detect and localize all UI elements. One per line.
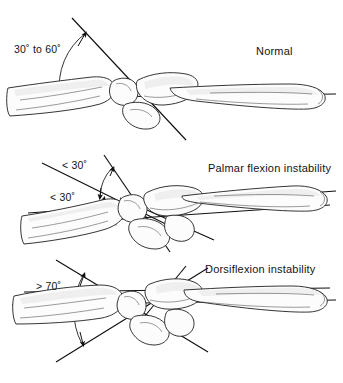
angle-label-palmar-lower: < 30˚ <box>50 192 75 203</box>
panel-title-dorsi: Dorsiflexion instability <box>205 264 316 275</box>
angle-label-palmar-upper: < 30˚ <box>62 160 87 171</box>
angle-label-dorsi: > 70˚ <box>36 281 61 292</box>
wrist-angle-figure: .bone{fill:#fcfcfc;stroke:#1f1f1f;stroke… <box>0 0 343 383</box>
panel-normal <box>0 0 343 130</box>
panel-title-palmar: Palmar flexion instability <box>208 163 331 174</box>
panel-title-normal: Normal <box>256 46 293 57</box>
angle-label-normal: 30˚ to 60˚ <box>14 44 61 55</box>
